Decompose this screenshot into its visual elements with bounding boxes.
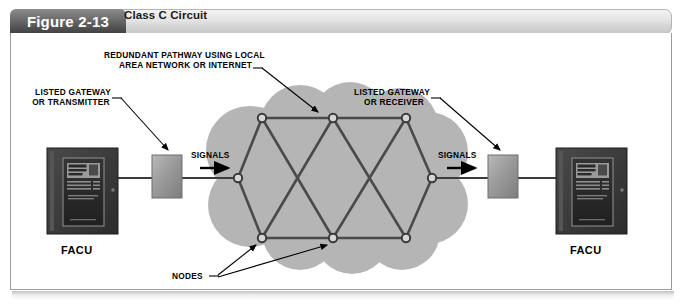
node-right (428, 174, 436, 182)
node-top-right (402, 114, 410, 122)
callout-redundant-pathway-line2: AREA NETWORK OR INTERNET (104, 60, 252, 71)
node-bottom-mid (329, 234, 337, 242)
node-bottom-left (258, 234, 266, 242)
gateway-right-box (488, 155, 518, 198)
facu-right-label: FACU (570, 244, 602, 256)
facu-left (47, 148, 118, 234)
callout-gateway-left-line1: LISTED GATEWAY (34, 87, 112, 98)
callout-redundant-pathway-line1: REDUNDANT PATHWAY USING LOCAL (104, 50, 264, 61)
callout-gateway-right-line2: OR RECEIVER (357, 97, 431, 108)
diagram-artwork (0, 0, 682, 306)
callout-gateway-left-line2: OR TRANSMITTER (30, 97, 112, 108)
callout-signals-left: SIGNALS (191, 150, 230, 161)
leader-gateway-left (121, 98, 168, 150)
node-left (234, 174, 242, 182)
callout-signals-right: SIGNALS (438, 150, 477, 161)
figure-panel: Figure 2-13 Class C Circuit (0, 0, 682, 306)
node-top-mid (329, 114, 337, 122)
callout-nodes: NODES (172, 271, 203, 282)
facu-left-label: FACU (61, 244, 93, 256)
gateway-left-box (152, 155, 182, 198)
node-bottom-right (402, 234, 410, 242)
facu-right (556, 148, 627, 234)
node-top-left (258, 114, 266, 122)
callout-gateway-right-line1: LISTED GATEWAY (353, 87, 431, 98)
leader-nodes-a (218, 245, 256, 275)
